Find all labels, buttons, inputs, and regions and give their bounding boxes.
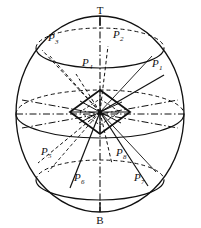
- point-label-p2-letter: P: [112, 28, 120, 40]
- point-label-p5-letter: P: [40, 145, 48, 157]
- point-label-p7-subscript: 7: [141, 178, 145, 186]
- point-label-p2-subscript: 2: [120, 35, 124, 43]
- point-label-p7: P 7: [133, 171, 145, 186]
- figure-canvas: T B P 1 P 2 P 3 P 4 P 5 P 6 P 7 P 8: [0, 0, 201, 228]
- radial-line-p7: [100, 112, 148, 186]
- point-label-p8-subscript: 8: [123, 153, 127, 161]
- top-pole-label: T: [97, 4, 104, 16]
- point-label-p7-letter: P: [133, 171, 141, 183]
- cone-edge-upper-right: [100, 56, 152, 112]
- radial-line-p1: [100, 75, 164, 112]
- point-label-p4-subscript: 4: [89, 63, 93, 71]
- point-label-p4: P 4: [81, 56, 93, 71]
- point-label-p3-subscript: 3: [54, 38, 59, 46]
- point-label-p3: P 3: [47, 31, 59, 46]
- center-point: [98, 110, 102, 114]
- point-label-p5-subscript: 5: [48, 152, 52, 160]
- cone-edge-lower-left: [48, 112, 100, 172]
- point-label-p8: P 8: [115, 146, 127, 161]
- point-label-p6-subscript: 6: [81, 178, 85, 186]
- point-label-p2: P 2: [112, 28, 124, 43]
- point-label-p4-letter: P: [81, 56, 89, 68]
- point-label-p1-subscript: 1: [159, 64, 163, 72]
- bottom-pole-label: B: [96, 214, 103, 226]
- point-label-p1-letter: P: [151, 57, 159, 69]
- point-label-p6: P 6: [73, 171, 85, 186]
- point-label-p8-letter: P: [115, 146, 123, 158]
- point-label-p5: P 5: [40, 145, 52, 160]
- point-label-p1: P 1: [151, 57, 163, 72]
- sphere-octahedron-diagram: T B P 1 P 2 P 3 P 4 P 5 P 6 P 7 P 8: [0, 0, 201, 228]
- point-label-p3-letter: P: [47, 31, 55, 43]
- cone-edge-lower-right: [100, 112, 156, 172]
- point-label-p6-letter: P: [73, 171, 81, 183]
